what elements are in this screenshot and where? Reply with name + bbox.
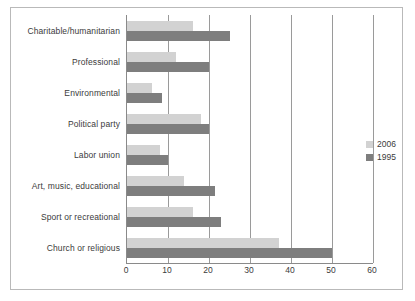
bar-group — [127, 139, 373, 170]
bar-group — [127, 170, 373, 201]
bar-group — [127, 46, 373, 77]
bars-layer — [127, 15, 373, 263]
bar-2006 — [127, 21, 193, 31]
legend-entry-2006: 2006 — [366, 139, 414, 149]
bar-group — [127, 108, 373, 139]
bar-2006 — [127, 238, 279, 248]
category-axis: Charitable/humanitarian Professional Env… — [11, 15, 126, 263]
bar-group — [127, 232, 373, 263]
bar-2006 — [127, 114, 201, 124]
x-tick-label: 0 — [124, 265, 129, 275]
legend-label: 1995 — [377, 152, 396, 162]
bar-group — [127, 201, 373, 232]
plot-area — [126, 15, 373, 264]
legend-label: 2006 — [377, 139, 396, 149]
category-label: Charitable/humanitarian — [11, 15, 126, 46]
category-label: Professional — [11, 46, 126, 77]
bar-1995 — [127, 248, 332, 258]
bar-2006 — [127, 176, 184, 186]
category-label: Sport or recreational — [11, 201, 126, 232]
legend-swatch-2006 — [366, 141, 373, 148]
category-label: Church or religious — [11, 232, 126, 263]
x-tick-label: 40 — [285, 265, 294, 275]
category-label: Political party — [11, 108, 126, 139]
bar-1995 — [127, 186, 215, 196]
x-tick-label: 50 — [326, 265, 335, 275]
legend-swatch-1995 — [366, 154, 373, 161]
bar-group — [127, 77, 373, 108]
bar-1995 — [127, 155, 168, 165]
bar-2006 — [127, 52, 176, 62]
bar-group — [127, 15, 373, 46]
bar-2006 — [127, 145, 160, 155]
x-axis-tick-labels: 0102030405060 — [126, 265, 372, 281]
legend-entry-1995: 1995 — [366, 152, 414, 162]
bar-1995 — [127, 62, 209, 72]
x-tick-label: 30 — [244, 265, 253, 275]
bar-2006 — [127, 83, 152, 93]
x-tick-label: 10 — [162, 265, 171, 275]
bar-1995 — [127, 93, 162, 103]
bar-2006 — [127, 207, 193, 217]
category-label: Labor union — [11, 139, 126, 170]
bar-1995 — [127, 31, 230, 41]
category-label: Environmental — [11, 77, 126, 108]
bar-1995 — [127, 124, 209, 134]
category-label: Art, music, educational — [11, 170, 126, 201]
bar-1995 — [127, 217, 221, 227]
chart-figure: Charitable/humanitarian Professional Env… — [10, 7, 403, 290]
x-tick-label: 20 — [203, 265, 212, 275]
x-tick-label: 60 — [367, 265, 376, 275]
chart-legend: 2006 1995 — [366, 139, 414, 162]
